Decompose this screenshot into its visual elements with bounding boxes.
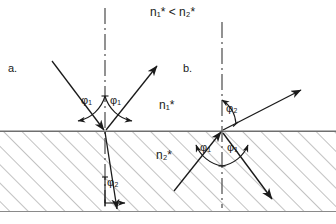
panel-a-reflection-angle-label: φ₁ <box>110 95 121 106</box>
figure-canvas <box>0 0 336 224</box>
panel-b-refraction-angle-label: φ₂ <box>226 103 237 114</box>
panel-label-a: a. <box>8 63 17 74</box>
upper-medium-index-label: n₁* <box>159 99 174 111</box>
refractive-index-relation: n₁* < n₂* <box>150 6 195 18</box>
panel-b-incidence-angle-label: φ₁ <box>200 142 211 153</box>
optics-refraction-figure: n₁* < n₂* a. b. n₁* n₂* φ₁ φ₁ φ₂ φ₂ φ₁ φ… <box>0 0 336 224</box>
panel-label-b: b. <box>183 63 192 74</box>
hatched-medium-fill <box>0 132 336 212</box>
panel-a-incident-ray <box>52 61 104 130</box>
panel-a-incidence-angle-label: φ₁ <box>81 95 92 106</box>
panel-a-refraction-angle-label: φ₂ <box>107 177 118 188</box>
panel-b-reflection-angle-label: φ₁ <box>227 142 238 153</box>
lower-medium-index-label: n₂* <box>156 149 172 161</box>
